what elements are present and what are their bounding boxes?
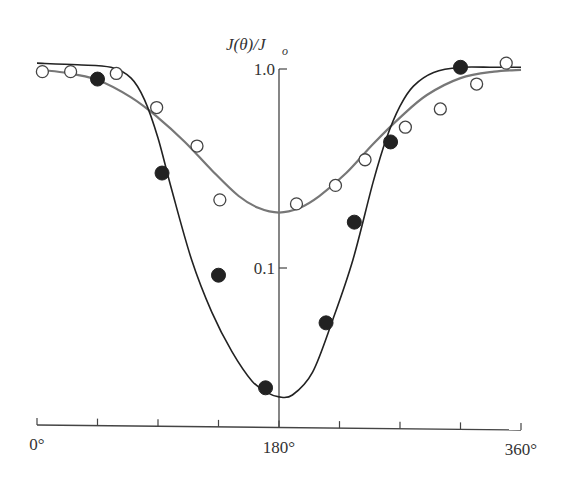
open-data-point — [214, 194, 226, 206]
y-tick-label: 1.0 — [254, 60, 275, 79]
x-tick-label: 180° — [263, 438, 295, 457]
open-data-point — [471, 78, 483, 90]
open-data-point — [191, 140, 203, 152]
filled-data-point — [155, 166, 169, 180]
filled-data-point — [319, 316, 333, 330]
x-axis: 0°180°360° — [29, 418, 537, 459]
markers — [36, 57, 512, 395]
chart: 0°180°360° 1.00.1 J(θ)/J o — [0, 0, 579, 477]
y-axis: 1.00.1 — [254, 60, 287, 428]
filled-data-point — [259, 381, 273, 395]
open-data-point — [329, 179, 341, 191]
filled-data-point — [91, 72, 105, 86]
filled-data-point — [454, 60, 468, 74]
filled-data-point — [384, 135, 398, 149]
x-tick-label: 0° — [29, 435, 44, 454]
y-tick-label: 0.1 — [254, 259, 275, 278]
filled-data-point — [347, 215, 361, 229]
filled-data-point — [212, 268, 226, 282]
open-data-point — [434, 103, 446, 115]
y-axis-title-sub: o — [282, 44, 288, 58]
open-data-point — [36, 66, 48, 78]
y-axis-title: J(θ)/J o — [226, 35, 288, 58]
open-data-point — [500, 57, 512, 69]
x-tick-label: 360° — [505, 440, 537, 459]
open-data-point — [359, 154, 371, 166]
open-data-point — [399, 121, 411, 133]
open-data-point — [65, 66, 77, 78]
open-data-point — [290, 198, 302, 210]
open-data-point — [151, 102, 163, 114]
open-data-point — [110, 67, 122, 79]
y-axis-title-main: J(θ)/J — [226, 35, 267, 54]
